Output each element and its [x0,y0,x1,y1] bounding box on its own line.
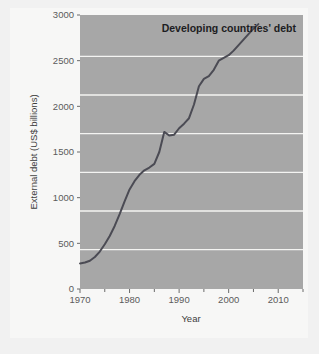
y-tick-label-0: 0 [69,283,74,294]
x-axis-title: Year [181,313,200,324]
x-tick-label-2010: 2010 [268,294,289,305]
y-tick-label-3000: 3000 [53,9,74,20]
x-tick-label-1990: 1990 [169,294,190,305]
x-tick-label-1970: 1970 [69,294,90,305]
x-tick-label-2000: 2000 [218,294,239,305]
y-axis-title: External debt (US$ billions) [28,94,39,209]
y-axis-ticks [77,15,80,289]
x-axis-tick-labels: 19701980199020002010 [69,294,288,305]
debt-line-chart: 050010001500200025003000 197019801990200… [0,0,319,354]
y-tick-label-1500: 1500 [53,146,74,157]
figure-root: 050010001500200025003000 197019801990200… [0,0,319,354]
y-tick-label-500: 500 [58,238,74,249]
x-tick-label-1980: 1980 [119,294,140,305]
chart-title: Developing countries' debt [162,22,297,34]
y-tick-label-2500: 2500 [53,55,74,66]
y-tick-label-2000: 2000 [53,101,74,112]
x-axis-ticks [80,289,303,293]
y-tick-label-1000: 1000 [53,192,74,203]
y-axis-tick-labels: 050010001500200025003000 [53,9,74,294]
